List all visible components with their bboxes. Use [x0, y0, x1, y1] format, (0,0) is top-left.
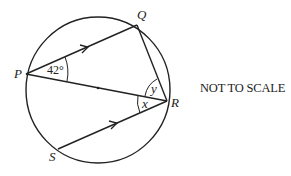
angle-label-y: y [149, 81, 157, 96]
circle [26, 17, 170, 163]
point-label-s: S [49, 149, 56, 164]
point-label-q: Q [137, 7, 147, 22]
chord-pq [26, 25, 137, 74]
angle-arc-p [65, 57, 68, 81]
angle-arc-x [137, 95, 140, 113]
center-point [97, 87, 100, 90]
chord-sr [58, 101, 167, 149]
point-label-p: P [13, 66, 22, 81]
angle-label-42: 42° [47, 63, 64, 77]
point-label-r: R [170, 95, 179, 110]
angle-label-x: x [141, 96, 148, 111]
not-to-scale-note: NOT TO SCALE [200, 81, 285, 96]
